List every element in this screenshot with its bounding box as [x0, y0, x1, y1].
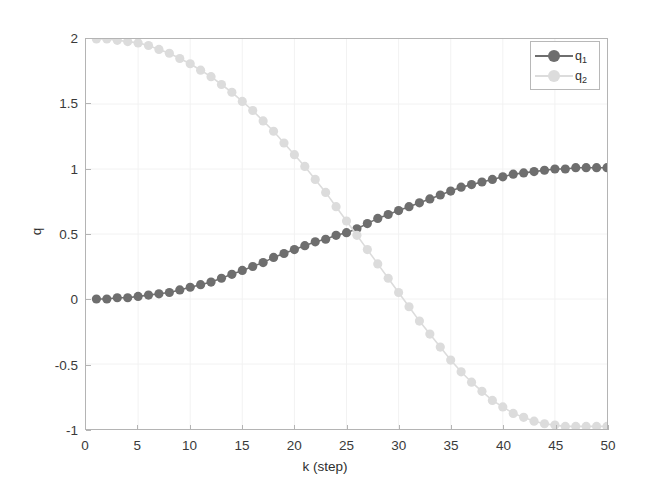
data-point: [488, 175, 497, 184]
data-point: [404, 202, 413, 211]
y-tick-label: 2: [30, 31, 78, 46]
legend: q1 q2: [530, 41, 600, 90]
data-point: [425, 194, 434, 203]
data-point: [186, 59, 195, 68]
data-point: [92, 39, 101, 44]
data-point: [394, 206, 403, 215]
legend-label-q1-base: q: [575, 49, 582, 63]
data-point: [519, 413, 528, 422]
data-point: [571, 163, 580, 172]
data-point: [300, 241, 309, 250]
y-tick-label: -0.5: [30, 357, 78, 372]
y-tick-mark: [86, 103, 91, 104]
data-point: [206, 278, 215, 287]
data-point: [582, 422, 591, 429]
x-tick-mark: [503, 425, 504, 430]
data-point: [300, 162, 309, 171]
data-point: [550, 164, 559, 173]
data-point: [165, 288, 174, 297]
x-tick-mark: [242, 425, 243, 430]
data-point: [540, 419, 549, 428]
data-point: [415, 198, 424, 207]
data-point: [175, 285, 184, 294]
x-tick-mark: [399, 425, 400, 430]
data-point: [488, 396, 497, 405]
data-point: [113, 39, 122, 45]
data-point: [154, 45, 163, 54]
x-tick-mark: [294, 425, 295, 430]
data-point: [529, 417, 538, 426]
data-point: [529, 167, 538, 176]
y-tick-mark: [86, 299, 91, 300]
data-point: [269, 127, 278, 136]
data-point: [113, 293, 122, 302]
x-tick-label: 20: [287, 438, 302, 453]
legend-label-q2-base: q: [575, 69, 582, 83]
x-tick-label: 25: [339, 438, 354, 453]
data-point: [144, 41, 153, 50]
data-point: [582, 163, 591, 172]
x-tick-mark: [347, 425, 348, 430]
x-tick-mark: [137, 425, 138, 430]
data-point: [404, 302, 413, 311]
legend-label-q1: q1: [575, 49, 587, 63]
legend-item-q2[interactable]: q2: [531, 66, 599, 86]
x-tick-label: 40: [496, 438, 511, 453]
data-point: [457, 367, 466, 376]
x-tick-mark: [556, 425, 557, 430]
data-point: [165, 49, 174, 58]
data-point: [373, 214, 382, 223]
data-point: [92, 294, 101, 303]
data-point: [384, 274, 393, 283]
data-point: [279, 138, 288, 147]
data-point: [186, 283, 195, 292]
data-point: [467, 378, 476, 387]
data-point: [134, 292, 143, 301]
data-point: [436, 343, 445, 352]
x-tick-label: 10: [182, 438, 197, 453]
data-point: [175, 54, 184, 63]
data-point: [259, 116, 268, 125]
data-point: [363, 219, 372, 228]
x-tick-label: 0: [81, 438, 89, 453]
data-point: [498, 402, 507, 411]
x-tick-label: 5: [134, 438, 142, 453]
data-point: [321, 235, 330, 244]
data-point: [321, 188, 330, 197]
data-point: [238, 266, 247, 275]
data-point: [394, 288, 403, 297]
data-point: [123, 293, 132, 302]
series-line-q_2: [96, 39, 607, 426]
legend-item-q1[interactable]: q1: [531, 46, 599, 66]
data-point: [217, 80, 226, 89]
data-point: [384, 210, 393, 219]
data-point: [561, 422, 570, 429]
legend-label-q2-sub: 2: [582, 75, 587, 85]
data-point: [602, 163, 607, 172]
legend-label-q1-sub: 1: [582, 55, 587, 65]
data-point: [331, 202, 340, 211]
data-point: [373, 259, 382, 268]
figure: -1-0.500.511.52 05101520253035404550 q k…: [0, 0, 650, 490]
data-point: [352, 231, 361, 240]
data-point: [331, 231, 340, 240]
y-tick-mark: [86, 38, 91, 39]
y-tick-mark: [86, 365, 91, 366]
series-layer: [86, 39, 607, 429]
y-tick-mark: [86, 430, 91, 431]
data-point: [571, 422, 580, 429]
data-point: [196, 66, 205, 75]
y-tick-label: -1: [30, 423, 78, 438]
data-point: [217, 274, 226, 283]
data-point: [363, 245, 372, 254]
data-point: [102, 39, 111, 44]
y-axis-title: q: [29, 210, 44, 254]
y-tick-mark: [86, 169, 91, 170]
data-point: [477, 177, 486, 186]
x-tick-mark: [190, 425, 191, 430]
plot-area: [85, 38, 608, 430]
data-point: [279, 249, 288, 258]
data-point: [144, 291, 153, 300]
data-point: [446, 187, 455, 196]
data-point: [519, 168, 528, 177]
